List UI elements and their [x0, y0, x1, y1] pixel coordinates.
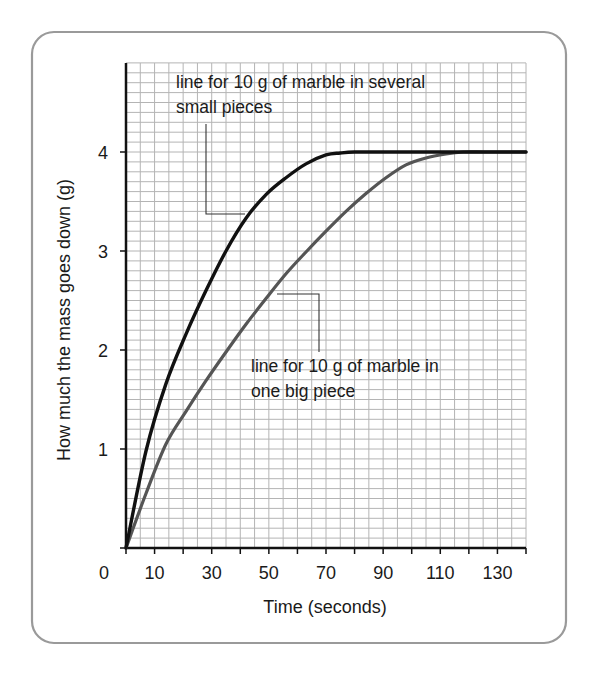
x-axis-title: Time (seconds)	[263, 597, 386, 617]
y-tick-label: 1	[98, 440, 108, 460]
annotation-small-pieces-line2: small pieces	[176, 97, 273, 117]
x-tick-label: 10	[145, 563, 165, 583]
x-tick-label: 130	[482, 563, 512, 583]
chart-figure: 01030507090110130 1234 line for 10 g of …	[0, 0, 601, 689]
x-tick-label: 90	[373, 563, 393, 583]
line-chart: 01030507090110130 1234 line for 10 g of …	[0, 0, 601, 689]
annotation-big-piece-line2: one big piece	[251, 381, 355, 401]
y-tick-label: 2	[98, 341, 108, 361]
y-tick-label: 3	[98, 242, 108, 262]
chart-frame	[32, 32, 566, 643]
x-tick-label: 50	[259, 563, 279, 583]
annotation-big-piece-line1: line for 10 g of marble in	[251, 356, 439, 376]
x-tick-label: 30	[202, 563, 222, 583]
annotation-small-pieces-line1: line for 10 g of marble in several	[176, 72, 425, 92]
x-tick-label: 0	[99, 563, 109, 583]
x-tick-label: 70	[316, 563, 336, 583]
y-tick-label: 4	[98, 143, 108, 163]
y-axis-title: How much the mass goes down (g)	[54, 179, 74, 461]
x-tick-label: 110	[426, 563, 455, 583]
